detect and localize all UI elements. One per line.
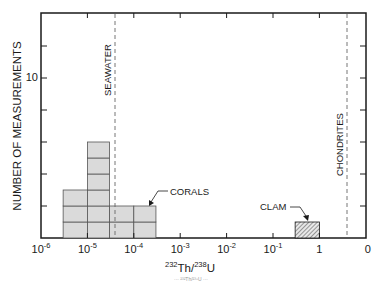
corals-bar-cell bbox=[87, 190, 109, 206]
corals-bar-cell bbox=[110, 222, 134, 238]
x-title-sup-2: 238 bbox=[194, 260, 207, 269]
corals-bar-cell bbox=[87, 222, 109, 238]
histogram-chart: 10-610-510-410-310-210-110 10 SEAWATER C… bbox=[0, 0, 382, 285]
cropped-caption-fragment: ··· ²³²Th/²³⁸U ··· bbox=[0, 276, 382, 285]
clam-label: CLAM bbox=[260, 201, 286, 212]
y-tick-label-10: 10 bbox=[26, 71, 38, 83]
corals-bar-cell bbox=[87, 174, 109, 190]
y-axis-title: NUMBER OF MEASUREMENTS bbox=[11, 41, 23, 211]
x-title-sup-1: 232 bbox=[165, 260, 178, 269]
x-tick-label: 10-3 bbox=[171, 241, 190, 255]
corals-bar-cell bbox=[110, 206, 134, 222]
corals-bar-cell bbox=[63, 190, 87, 206]
seawater-label: SEAWATER bbox=[102, 44, 113, 96]
x-tick-labels: 10-610-510-410-310-210-110 bbox=[32, 241, 371, 255]
corals-bar-cell bbox=[63, 222, 87, 238]
x-tick-label: 10-2 bbox=[217, 241, 236, 255]
x-tick-label: 1 bbox=[316, 243, 322, 255]
clam-leader-line bbox=[290, 207, 306, 216]
x-tick-label: 10-6 bbox=[32, 241, 51, 255]
corals-label: CORALS bbox=[170, 186, 209, 197]
x-tick-label: 10-1 bbox=[264, 241, 283, 255]
chondrites-label: CHONDRITES bbox=[334, 113, 345, 176]
corals-bar-cell bbox=[134, 222, 156, 238]
x-title-base-2: U bbox=[207, 262, 215, 274]
x-tick-label: 0 bbox=[365, 243, 371, 255]
corals-bar-cell bbox=[63, 206, 87, 222]
x-axis-title: 232Th/238U bbox=[165, 260, 215, 274]
corals-bar-cell bbox=[87, 206, 109, 222]
x-tick-label: 10-5 bbox=[78, 241, 97, 255]
x-tick-label: 10-4 bbox=[124, 241, 143, 255]
clam-arrow-icon bbox=[303, 215, 309, 221]
corals-bar-cell bbox=[87, 142, 109, 158]
corals-leader-line bbox=[151, 191, 168, 202]
x-title-base-1: Th/ bbox=[178, 262, 195, 274]
corals-bar-cell bbox=[87, 158, 109, 174]
corals-bar-cell bbox=[134, 206, 156, 222]
clam-bar bbox=[295, 222, 319, 238]
